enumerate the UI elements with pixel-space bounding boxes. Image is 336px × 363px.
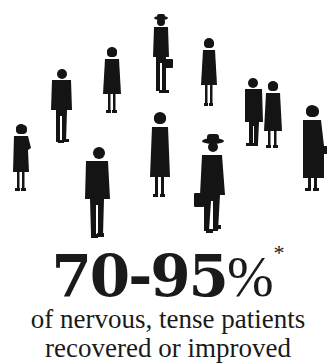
caption-line-1: of nervous, tense patients xyxy=(0,304,336,334)
woman-silhouette xyxy=(148,110,172,199)
woman-silhouette xyxy=(11,122,34,194)
man-silhouette xyxy=(81,145,111,241)
silhouette-illustration xyxy=(0,0,336,245)
caption-line-2-cutoff: recovered or improved xyxy=(0,333,336,363)
percent-sign: % xyxy=(227,246,274,308)
woman-silhouette xyxy=(199,37,219,108)
man-with-hat-silhouette xyxy=(149,14,175,96)
woman-silhouette xyxy=(301,103,328,193)
statistic-headline: 70-95%* xyxy=(0,244,336,309)
woman-silhouette xyxy=(101,45,123,116)
man-silhouette xyxy=(49,68,73,146)
footnote-asterisk: * xyxy=(274,240,285,265)
percentage-range: 70-95 xyxy=(51,242,227,310)
man-with-hat-silhouette xyxy=(194,133,230,236)
man-silhouette xyxy=(243,77,264,149)
woman-silhouette xyxy=(263,80,283,151)
